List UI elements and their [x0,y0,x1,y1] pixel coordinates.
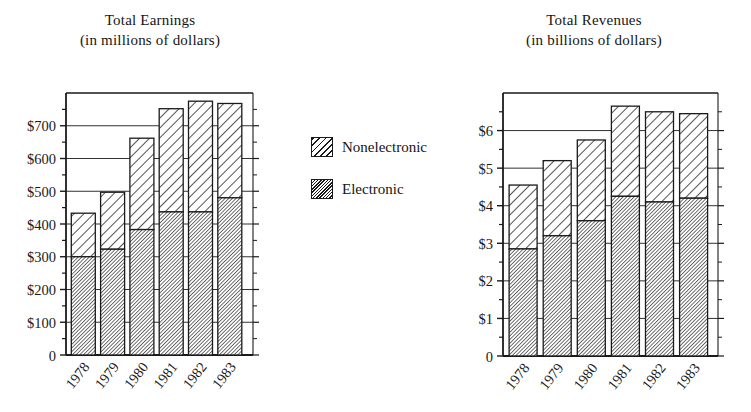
y-axis-tick-label: $6 [479,123,494,139]
plot-area-revenues: 0$1$2$3$4$5$6197819791980198119821983 [437,0,751,412]
legend-swatch-nonelectronic [311,137,333,157]
x-axis-tick-label: 1979 [92,359,122,392]
x-axis-tick-label: 1980 [121,359,151,392]
bar-segment-nonelectronic-1978 [71,213,95,257]
bar-segment-electronic-1983 [218,198,242,355]
bar-segment-nonelectronic-1978 [509,185,537,249]
legend-label-nonelectronic: Nonelectronic [342,138,427,156]
chart-legend: Nonelectronic Electronic [311,136,439,220]
bar-segment-nonelectronic-1981 [159,109,183,212]
bar-segment-nonelectronic-1979 [543,161,571,236]
y-axis-tick-label: 0 [486,349,493,365]
x-axis-tick-label: 1978 [502,360,532,393]
x-axis-tick-label: 1981 [604,360,634,393]
chart-panel-revenues: Total Revenues (in billions of dollars) … [437,0,751,412]
y-axis-tick-label: $500 [27,184,56,200]
bar-segment-electronic-1978 [71,257,95,355]
y-axis-tick-label: $4 [479,198,494,214]
y-axis-tick-label: $300 [27,249,56,265]
y-axis-tick-label: 0 [49,348,56,364]
x-axis-tick-label: 1979 [536,360,566,393]
bar-segment-electronic-1982 [189,212,213,355]
bar-segment-nonelectronic-1983 [680,114,708,199]
x-axis-tick-label: 1983 [673,360,703,393]
bar-segment-electronic-1980 [577,221,605,356]
legend-label-electronic: Electronic [342,180,404,198]
plot-area-earnings: 0$100$200$300$400$500$600$70019781979198… [0,0,300,412]
bar-segment-electronic-1981 [611,196,639,356]
bar-segment-electronic-1982 [646,202,674,356]
bar-segment-electronic-1981 [159,212,183,355]
bar-segment-nonelectronic-1983 [218,103,242,197]
y-axis-tick-label: $700 [27,118,56,134]
y-axis-tick-label: $1 [479,311,494,327]
legend-item-electronic[interactable]: Electronic [311,178,439,200]
legend-swatch-electronic [311,179,333,199]
bar-segment-nonelectronic-1981 [611,106,639,196]
y-axis-tick-label: $3 [479,236,494,252]
bar-segment-nonelectronic-1982 [646,112,674,202]
bar-segment-nonelectronic-1979 [101,192,125,249]
x-axis-tick-label: 1980 [570,360,600,393]
bar-segment-electronic-1983 [680,198,708,356]
legend-item-nonelectronic[interactable]: Nonelectronic [311,136,439,158]
y-axis-tick-label: $100 [27,315,56,331]
bar-segment-nonelectronic-1980 [577,140,605,221]
y-axis-tick-label: $400 [27,217,56,233]
bar-segment-electronic-1979 [101,249,125,355]
figure-two-stacked-bar-charts: Total Earnings (in millions of dollars) … [0,0,751,412]
x-axis-tick-label: 1978 [62,359,92,392]
y-axis-tick-label: $600 [27,151,56,167]
bar-segment-nonelectronic-1982 [189,101,213,212]
bar-segment-electronic-1980 [130,230,154,355]
y-axis-tick-label: $2 [479,273,494,289]
y-axis-tick-label: $5 [479,161,494,177]
chart-panel-earnings: Total Earnings (in millions of dollars) … [0,0,300,412]
x-axis-tick-label: 1983 [209,359,239,392]
bar-segment-electronic-1979 [543,236,571,356]
bar-segment-electronic-1978 [509,249,537,356]
y-axis-tick-label: $200 [27,282,56,298]
bar-segment-nonelectronic-1980 [130,138,154,229]
x-axis-tick-label: 1982 [638,360,668,393]
x-axis-tick-label: 1981 [150,359,180,392]
x-axis-tick-label: 1982 [179,359,209,392]
